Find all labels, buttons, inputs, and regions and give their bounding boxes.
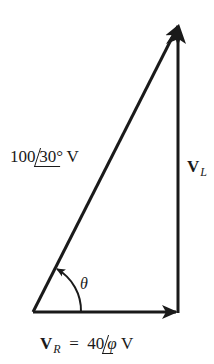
angle-symbol-icon: φ — [102, 335, 120, 354]
vr-equals: = — [69, 334, 79, 353]
vl-subscript: L — [200, 165, 207, 179]
total-voltage-angle: 30° — [39, 148, 63, 165]
total-voltage-magnitude: 100 — [10, 147, 36, 166]
vr-angle: φ — [108, 335, 117, 352]
vr-symbol: V — [40, 334, 52, 353]
angle-symbol-icon: 30° — [33, 148, 65, 167]
vr-magnitude: 40 — [87, 334, 104, 353]
total-voltage-unit: V — [67, 147, 79, 166]
vl-symbol: V — [187, 157, 199, 176]
total-voltage-phasor-arrow — [33, 26, 178, 312]
theta-label: θ — [80, 276, 88, 292]
vr-subscript: R — [53, 342, 60, 356]
theta-angle-arc — [57, 269, 81, 312]
vr-label: VR = 40φ V — [40, 335, 133, 354]
vl-label: VL — [187, 158, 207, 175]
phasor-diagram — [0, 0, 214, 364]
vr-unit: V — [121, 334, 133, 353]
total-voltage-label: 10030° V — [10, 148, 79, 167]
